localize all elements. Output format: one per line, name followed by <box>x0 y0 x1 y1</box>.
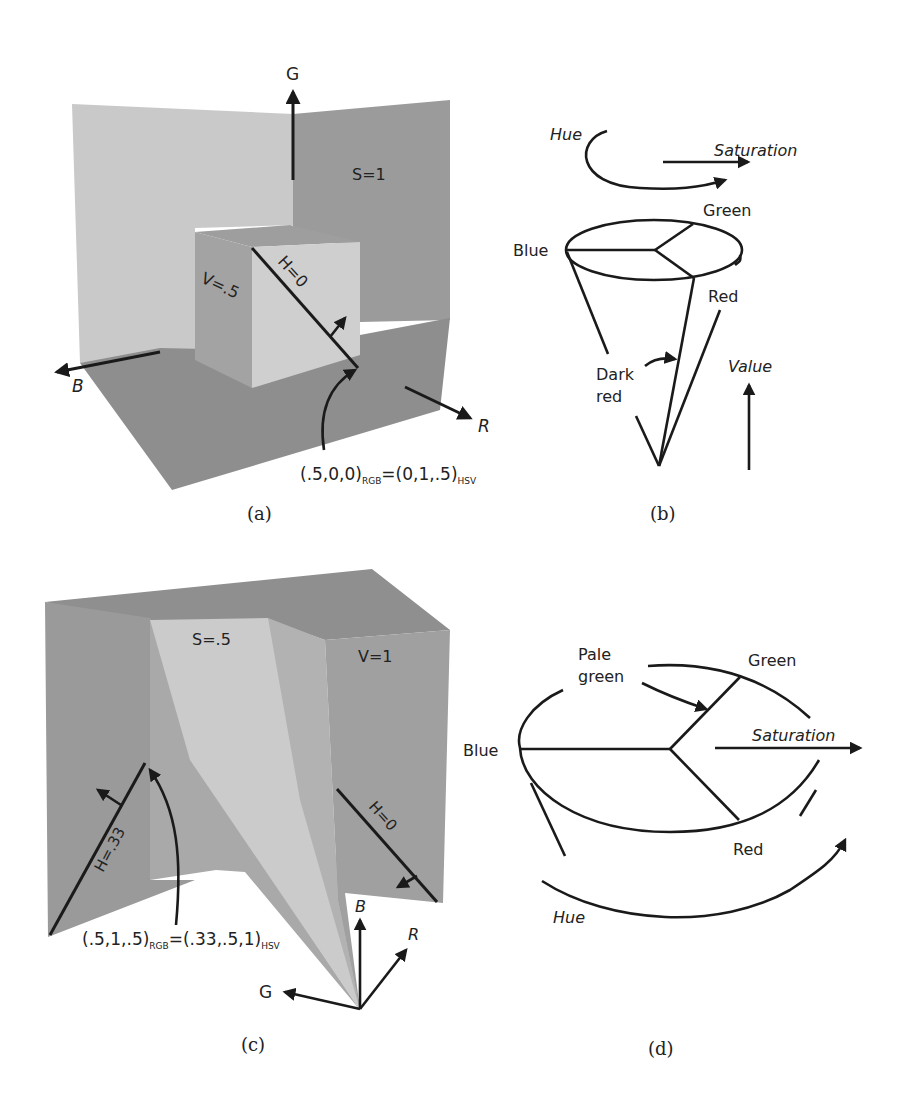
b-axis-label: B <box>355 897 366 916</box>
panel-a: G S=1 H=0 V=.5 B R (.5,0,0)RGB=(0,1,.5)H… <box>57 64 490 524</box>
dark-red-pointer <box>645 358 675 366</box>
saturation-label: Saturation <box>752 726 835 745</box>
spoke-green <box>655 224 693 250</box>
hsv-disc-ellipse <box>648 665 810 718</box>
dark-red-label-line2: red <box>596 387 622 406</box>
red-label: Red <box>708 287 738 306</box>
pale-green-label-line1: Pale <box>578 645 611 664</box>
panel-c: S=.5 V=1 H=.33 H=0 (.5,1,.5)RGB=(.33,.5,… <box>45 569 450 1055</box>
rgb-hsv-annotation: (.5,1,.5)RGB=(.33,.5,1)HSV <box>82 929 281 951</box>
cone-edge-left-lower <box>636 416 659 466</box>
g-axis-label: G <box>259 982 272 1002</box>
cylinder-edge-right <box>800 790 816 816</box>
g-axis-label: G <box>286 64 299 84</box>
cone-edge-left <box>567 252 608 354</box>
saturation-label: Saturation <box>714 141 797 160</box>
pale-green-pointer <box>642 683 706 709</box>
dark-red-label-line1: Dark <box>596 365 635 384</box>
caption-c: (c) <box>241 1034 265 1055</box>
value-label: V=1 <box>358 647 393 666</box>
saturation-label: S=1 <box>352 165 386 184</box>
r-axis-arrow <box>360 950 406 1009</box>
spoke-red <box>655 250 694 278</box>
caption-b: (b) <box>650 503 676 524</box>
blue-label: Blue <box>513 241 548 260</box>
rgb-hsv-annotation: (.5,0,0)RGB=(0,1,.5)HSV <box>300 464 477 486</box>
hsv-disc-ellipse-left <box>519 690 819 832</box>
r-axis-label: R <box>408 925 419 944</box>
pale-green-label-line2: green <box>578 667 624 686</box>
panel-b: Hue Saturation Green Blue Red Dark red V… <box>513 125 797 524</box>
svg-text:(.5,0,0)RGB=(0,1,.5)HSV: (.5,0,0)RGB=(0,1,.5)HSV <box>300 464 477 486</box>
spoke-green <box>670 677 740 749</box>
cylinder-edge-left <box>531 783 565 856</box>
hue-label: Hue <box>550 125 582 144</box>
caption-a: (a) <box>247 503 272 524</box>
saturation-label: S=.5 <box>192 630 231 649</box>
hue-rotation-arrow <box>542 840 845 917</box>
b-axis-label: B <box>72 376 84 396</box>
red-label: Red <box>733 840 763 859</box>
blue-label: Blue <box>463 741 498 760</box>
green-label: Green <box>748 651 796 670</box>
spoke-red <box>670 749 739 820</box>
panel-d: Pale green Green Blue Saturation Red Hue… <box>463 645 860 1059</box>
hsv-color-model-figure: G S=1 H=0 V=.5 B R (.5,0,0)RGB=(0,1,.5)H… <box>0 0 903 1101</box>
hue-label: Hue <box>553 908 585 927</box>
green-label: Green <box>703 201 751 220</box>
hue-rotation-arrow <box>586 131 725 189</box>
caption-d: (d) <box>648 1038 674 1059</box>
value-label: Value <box>728 357 772 376</box>
cone-edge-right <box>659 310 720 466</box>
cone-edge-red <box>659 278 694 466</box>
r-axis-label: R <box>478 416 490 436</box>
svg-text:(.5,1,.5)RGB=(.33,.5,1)HSV: (.5,1,.5)RGB=(.33,.5,1)HSV <box>82 929 281 951</box>
